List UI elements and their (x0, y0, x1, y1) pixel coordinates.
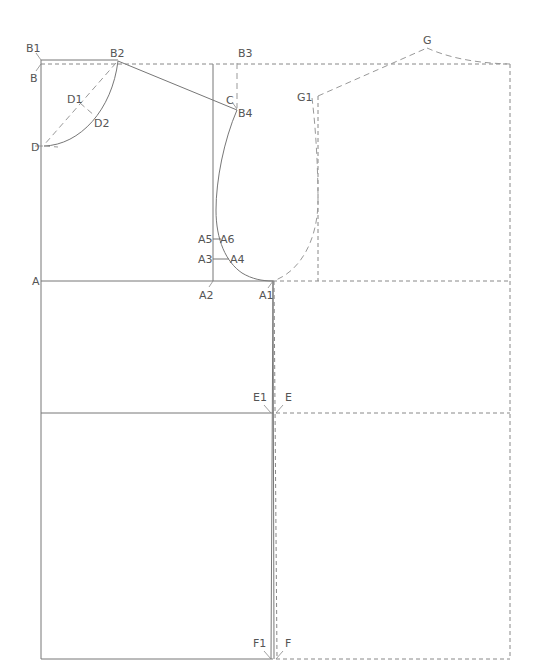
label-b1: B1 (26, 42, 41, 55)
point-labels: B1 B B2 B3 C B4 D1 D2 D A5 A6 A3 A4 A A2… (26, 34, 432, 650)
label-g1: G1 (297, 91, 313, 104)
d-tick (44, 146, 58, 147)
label-b2: B2 (110, 47, 125, 60)
label-b4: B4 (238, 107, 253, 120)
front-shoulder-line (318, 48, 427, 96)
label-d2: D2 (94, 117, 109, 130)
pattern-diagram: B1 B B2 B3 C B4 D1 D2 D A5 A6 A3 A4 A A2… (0, 0, 538, 670)
shoulder-line (118, 61, 237, 110)
label-f1: F1 (253, 637, 266, 650)
label-d1: D1 (67, 93, 82, 106)
label-d: D (31, 141, 39, 154)
leader-lines (35, 53, 283, 659)
dashed-outline (41, 48, 510, 659)
label-a3: A3 (198, 253, 213, 266)
label-a1: A1 (259, 289, 274, 302)
label-e1: E1 (253, 391, 267, 404)
solid-outline (41, 60, 274, 659)
label-a6: A6 (220, 233, 235, 246)
label-b: B (30, 72, 38, 85)
pattern-drawing: B1 B B2 B3 C B4 D1 D2 D A5 A6 A3 A4 A A2… (0, 0, 538, 670)
label-b3: B3 (238, 47, 253, 60)
front-side-seam (274, 281, 277, 659)
label-a4: A4 (230, 253, 245, 266)
label-a2: A2 (199, 289, 214, 302)
label-g: G (423, 34, 432, 47)
label-c: C (226, 94, 234, 107)
label-f: F (285, 637, 291, 650)
front-neck-curve (427, 48, 510, 64)
front-armhole-curve (273, 98, 318, 281)
label-e: E (285, 391, 292, 404)
label-a5: A5 (198, 233, 213, 246)
side-seam-line-2 (273, 281, 274, 659)
label-a: A (32, 275, 40, 288)
